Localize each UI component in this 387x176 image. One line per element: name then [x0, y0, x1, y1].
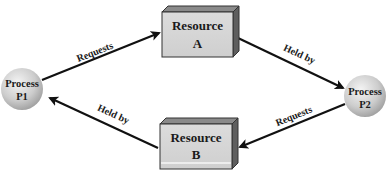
edge-p2-requests-rb: Requests [240, 103, 345, 147]
edge-ra-heldby-p2: Held by [238, 38, 343, 88]
process-p1-node: Process P1 [1, 68, 43, 110]
edge-label-requests-1: Requests [75, 40, 115, 64]
resource-b-node: Resource B [160, 118, 238, 169]
resource-a-label-line1: Resource [172, 18, 223, 33]
process-sphere [1, 68, 43, 110]
box-top-face [162, 6, 239, 12]
resource-a-node: Resource A [162, 6, 239, 57]
resource-b-label-line1: Resource [170, 130, 221, 145]
edge-rb-heldby-p1: Held by [50, 98, 158, 148]
resource-a-label-line2: A [193, 36, 203, 51]
process-p1-label-line2: P1 [16, 91, 28, 102]
deadlock-diagram: Requests Held by Requests Held by Resour… [0, 0, 387, 176]
process-p2-label-line2: P2 [359, 99, 371, 110]
resource-b-label-line2: B [192, 147, 201, 162]
box-top-face [160, 118, 238, 124]
process-p1-label-line1: Process [5, 78, 39, 89]
process-p2-node: Process P2 [344, 75, 386, 117]
box-side-face [233, 6, 239, 57]
edge-p1-requests-ra: Requests [42, 33, 159, 80]
process-p2-label-line1: Process [348, 86, 382, 97]
box-side-face [232, 118, 238, 169]
arrow-line [42, 33, 159, 80]
